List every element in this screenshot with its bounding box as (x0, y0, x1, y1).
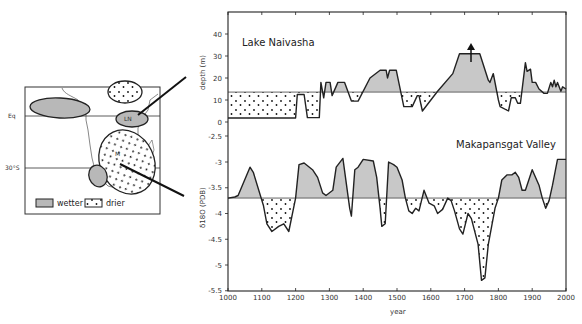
plot-frame (228, 12, 566, 291)
y-tick-label: -2.5 (208, 133, 222, 141)
drier-region-northeast (108, 81, 142, 103)
axes: 403020100-2.5-3-3.5-4-4.5-5-5.5100011001… (208, 12, 575, 302)
site-label-m: M (115, 150, 120, 157)
legend-wetter-label: wetter (57, 199, 84, 208)
equator-label: Eq (8, 112, 16, 120)
lower-y-axis-title: δ18O (PDB) (199, 187, 207, 228)
y-tick-label: -4 (215, 210, 223, 218)
x-tick-label: 1800 (489, 294, 507, 302)
x-tick-label: 2000 (557, 294, 575, 302)
y-tick-label: -4.5 (208, 236, 222, 244)
x-tick-label: 1100 (253, 294, 271, 302)
figure: Eq 30°S LN M wetter drier 403020100-2.5-… (0, 0, 582, 324)
y-tick-label: 0 (218, 119, 222, 127)
chart-panel: 403020100-2.5-3-3.5-4-4.5-5-5.5100011001… (199, 12, 575, 316)
x-tick-label: 1600 (422, 294, 440, 302)
lake-naivasha-series (228, 54, 566, 118)
wetter-region-ln (116, 111, 148, 127)
y-tick-label: 30 (213, 53, 222, 61)
y-tick-label: 10 (213, 97, 222, 105)
makapansgat-title: Makapansgat Valley (456, 139, 556, 150)
x-tick-label: 1200 (287, 294, 305, 302)
lat-30s-label: 30°S (5, 164, 20, 171)
y-tick-label: 40 (213, 31, 222, 39)
x-tick-label: 1400 (354, 294, 372, 302)
y-tick-label: 20 (213, 75, 222, 83)
map-panel: Eq 30°S LN M wetter drier (5, 77, 186, 214)
y-tick-label: -5 (215, 262, 222, 270)
x-axis-title: year (390, 308, 406, 316)
x-tick-label: 1000 (219, 294, 237, 302)
lake-naivasha-title: Lake Naivasha (242, 37, 315, 48)
x-tick-label: 1900 (523, 294, 541, 302)
makapansgat-series (228, 158, 566, 280)
y-tick-label: -3 (215, 159, 222, 167)
y-tick-label: -3.5 (208, 184, 222, 192)
legend-drier-label: drier (106, 199, 126, 208)
x-tick-label: 1300 (320, 294, 338, 302)
x-tick-label: 1500 (388, 294, 406, 302)
upper-y-axis-title: depth (m) (199, 55, 207, 90)
legend-drier-swatch (85, 199, 102, 207)
site-label-ln: LN (124, 115, 132, 122)
x-tick-label: 1700 (456, 294, 474, 302)
legend-wetter-swatch (36, 199, 53, 207)
